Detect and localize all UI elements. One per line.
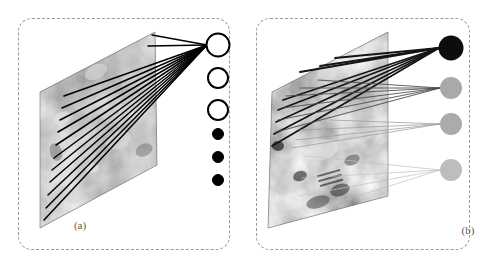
- panel-b: (b): [244, 0, 488, 271]
- attention-node: [440, 113, 462, 135]
- output-node: [207, 34, 230, 57]
- connection-line: [148, 45, 207, 46]
- connection-line: [152, 35, 207, 45]
- output-node: [208, 100, 228, 120]
- panel-a: (a): [0, 0, 244, 271]
- feature-map-plane-a: [30, 25, 170, 240]
- figure-root: (a): [0, 0, 488, 271]
- attention-node: [439, 36, 464, 61]
- caption-b: (b): [346, 224, 488, 236]
- ellipsis-dot: [213, 129, 224, 140]
- attention-node: [440, 159, 462, 181]
- ellipsis-dot: [213, 175, 224, 186]
- node-column-b: [439, 36, 464, 182]
- attention-node: [440, 77, 462, 99]
- node-column-a: [207, 34, 230, 186]
- ellipsis-dot: [213, 152, 224, 163]
- output-node: [208, 68, 228, 88]
- caption-a: (a): [0, 219, 202, 231]
